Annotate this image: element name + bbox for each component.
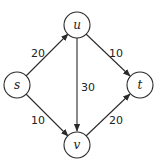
node-label-s: s (14, 78, 20, 92)
capacity-u-v: 30 (81, 81, 95, 94)
node-s: s (4, 72, 30, 98)
capacity-s-v: 10 (31, 114, 45, 127)
node-label-v: v (74, 138, 81, 152)
node-u: u (64, 12, 90, 38)
capacity-v-t: 20 (109, 114, 123, 127)
node-label-u: u (73, 18, 81, 32)
node-label-t: t (138, 78, 143, 92)
diagram-canvas: 20 10 30 10 20 s u v t (0, 0, 159, 167)
edge-u-t (86, 34, 130, 76)
capacity-s-u: 20 (31, 47, 45, 60)
edge-v-t (86, 94, 130, 136)
flow-network-diagram: 20 10 30 10 20 s u v t (0, 0, 159, 167)
node-v: v (64, 132, 90, 158)
node-t: t (127, 72, 153, 98)
capacity-u-t: 10 (109, 47, 123, 60)
